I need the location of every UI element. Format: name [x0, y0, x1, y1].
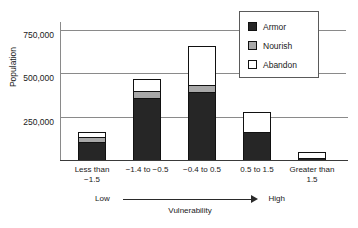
arrow-head-icon [251, 195, 258, 203]
gridline-750000 [60, 30, 239, 31]
y-tick-mark [60, 117, 64, 118]
legend-item-nourish: Nourish [248, 40, 292, 51]
bar-column [188, 46, 216, 160]
legend-swatch-abandon [248, 60, 257, 69]
bar-segment-abandon [133, 79, 161, 91]
legend-swatch-nourish [248, 41, 257, 50]
legend-label: Nourish [263, 41, 292, 51]
bar-segment-abandon [243, 112, 271, 132]
vulnerability-high-label: High [269, 194, 285, 203]
y-tick-label: 250,000 [8, 117, 54, 127]
bar-segment-abandon [188, 46, 216, 86]
x-tick-label: Greater than 1.5 [276, 165, 348, 185]
legend-item-abandon: Abandon [248, 59, 297, 70]
legend-label: Abandon [263, 60, 297, 70]
gridline-750000-right [319, 30, 346, 31]
bar-column [243, 112, 271, 160]
gridline-500000-right [319, 73, 346, 74]
bar-segment-armor [133, 98, 161, 160]
bar-segment-nourish [188, 85, 216, 92]
x-axis-line [60, 160, 348, 161]
x-tick-label-line2: −1.5 [56, 175, 128, 185]
x-axis-label: Vulnerability [95, 206, 285, 215]
y-tick-label: 500,000 [8, 73, 54, 83]
legend-swatch-armor [248, 22, 257, 31]
bar-segment-armor [298, 158, 326, 160]
bar-segment-nourish [133, 91, 161, 98]
y-tick-mark [60, 73, 64, 74]
y-tick-mark [60, 30, 64, 31]
bar-segment-armor [188, 92, 216, 160]
legend: Armor Nourish Abandon [239, 11, 319, 78]
arrow-line [123, 199, 253, 200]
bar-column [78, 132, 106, 160]
bar-segment-armor [78, 142, 106, 160]
legend-item-armor: Armor [248, 21, 286, 32]
x-tick-label-line2: 1.5 [276, 175, 348, 185]
y-axis-label: Population [8, 31, 18, 103]
bar-segment-armor [243, 132, 271, 160]
bar-column [133, 79, 161, 160]
y-tick-label: 750,000 [8, 30, 54, 40]
vulnerability-annotation: Low High Vulnerability [95, 194, 285, 220]
stacked-bar-chart: Population 750,000 500,000 250,000 Less … [0, 0, 358, 228]
legend-label: Armor [263, 22, 286, 32]
y-axis-line [60, 22, 61, 161]
bar-column [298, 152, 326, 160]
vulnerability-low-label: Low [95, 194, 110, 203]
x-tick-label-line1: Greater than [276, 165, 348, 175]
